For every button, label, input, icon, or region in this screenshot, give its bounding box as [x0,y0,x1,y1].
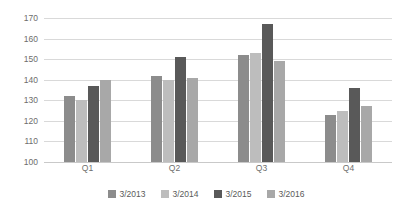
bar [349,88,360,162]
legend-label: 3/2015 [226,190,252,199]
y-axis-tick-label: 140 [4,75,38,84]
bar [175,57,186,162]
bar [262,24,273,162]
bar [151,76,162,162]
bar [337,111,348,162]
bar [325,115,336,162]
bar [64,96,75,162]
x-axis: Q1Q2Q3Q4 [44,164,392,180]
bar [187,78,198,162]
bar [274,61,285,162]
legend-swatch-icon [161,190,169,198]
bar-group-q2 [131,18,218,162]
legend-item[interactable]: 3/2015 [214,190,252,199]
gridline [44,162,392,163]
bar-chart: 100110120130140150160170 Q1Q2Q3Q4 3/2013… [0,0,412,217]
legend-swatch-icon [267,190,275,198]
bar [88,86,99,162]
bar [163,80,174,162]
bar-group-q4 [305,18,392,162]
legend-swatch-icon [214,190,222,198]
x-axis-category-label: Q2 [169,164,180,173]
x-axis-category-label: Q3 [256,164,267,173]
bar-group-q1 [44,18,131,162]
bar [100,80,111,162]
y-axis-tick-label: 100 [4,158,38,167]
y-axis-tick-label: 150 [4,55,38,64]
x-axis-category-label: Q4 [343,164,354,173]
bars-layer [44,18,392,162]
bar [361,106,372,162]
y-axis-tick-label: 130 [4,96,38,105]
y-axis-tick-label: 170 [4,14,38,23]
bar [238,55,249,162]
legend-label: 3/2016 [279,190,305,199]
y-axis-tick-label: 120 [4,117,38,126]
legend-label: 3/2013 [120,190,146,199]
bar [250,53,261,162]
legend-item[interactable]: 3/2013 [108,190,146,199]
y-axis-tick-label: 110 [4,137,38,146]
legend-item[interactable]: 3/2016 [267,190,305,199]
chart-legend: 3/20133/20143/20153/2016 [0,190,412,199]
legend-label: 3/2014 [173,190,199,199]
y-axis-tick-label: 160 [4,34,38,43]
legend-item[interactable]: 3/2014 [161,190,199,199]
bar-group-q3 [218,18,305,162]
bar [76,100,87,162]
x-axis-category-label: Q1 [82,164,93,173]
legend-swatch-icon [108,190,116,198]
y-axis: 100110120130140150160170 [0,18,38,162]
